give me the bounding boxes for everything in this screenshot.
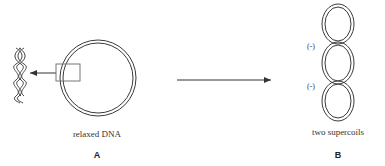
panel-label-b: B bbox=[335, 150, 342, 160]
panel-label-a: A bbox=[94, 150, 101, 160]
node-sign-lower: (-) bbox=[307, 82, 315, 91]
supercoiled-dna bbox=[322, 4, 354, 121]
double-helix-icon bbox=[14, 48, 27, 103]
caption-two-supercoils: two supercoils bbox=[312, 127, 365, 137]
dna-supercoil-diagram: relaxed DNA A (-) (-) two supercoils B bbox=[0, 0, 385, 166]
relaxed-dna-circle bbox=[60, 40, 136, 116]
node-sign-upper: (-) bbox=[307, 42, 315, 51]
caption-relaxed-dna: relaxed DNA bbox=[73, 129, 122, 139]
